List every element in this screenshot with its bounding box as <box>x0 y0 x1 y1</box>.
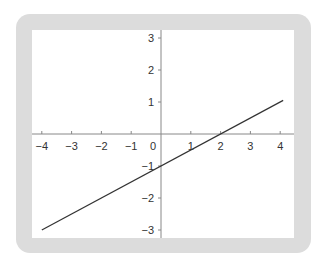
x-tick-label: 0 <box>150 140 156 152</box>
y-tick-label: 3 <box>148 32 154 44</box>
y-tick-label: 2 <box>148 64 154 76</box>
x-tick-label: −2 <box>95 140 108 152</box>
x-tick-label: −4 <box>36 140 49 152</box>
series-line <box>42 100 283 230</box>
y-tick-label: −3 <box>141 224 154 236</box>
y-tick-label: −2 <box>141 192 154 204</box>
x-tick-label: 3 <box>247 140 253 152</box>
x-tick-label: 4 <box>277 140 283 152</box>
y-tick-label: 1 <box>148 96 154 108</box>
x-tick-label: −3 <box>65 140 78 152</box>
x-tick-label: −1 <box>125 140 138 152</box>
x-tick-label: 2 <box>218 140 224 152</box>
line-chart: −4−3−2−101234 −3−2−1123 <box>0 0 325 259</box>
data-series <box>42 100 283 230</box>
